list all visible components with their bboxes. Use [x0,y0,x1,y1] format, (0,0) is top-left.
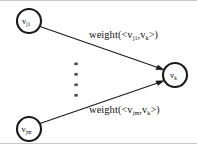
weight-top-target-subscript: k [146,34,149,41]
node-vk-label: vk [170,71,177,80]
vertical-ellipsis-icon [74,63,77,97]
edge-vjm-vk-arrowhead [156,81,165,86]
node-vj1-subscript: j1 [26,21,30,27]
weight-top-target: v [140,29,145,40]
node-vjm-subscript: jm [26,129,32,135]
edge-vj1-vk-arrowhead [156,65,165,70]
edge-vjm-vk-weight-label: weight(<vjm,vk>) [89,105,160,116]
weight-top-function: weight [89,29,118,40]
weight-bottom-source: v [127,104,132,115]
weight-top-source: v [127,29,132,40]
node-vj1-label: vj1 [22,17,31,26]
weight-bottom-open: (< [118,104,127,115]
edge-vj1-vk-weight-label: weight(<vj1,vk>) [89,30,158,41]
node-vjm-label: vjm [22,125,32,134]
weight-top-close: >) [149,29,158,40]
graph-diagram: vj1 vjm vk weight(<vj1,vk>) weight(<vjm,… [0,0,197,151]
weight-top-open: (< [118,29,127,40]
weight-bottom-close: >) [150,104,159,115]
weight-bottom-target-subscript: k [147,109,150,116]
weight-top-source-subscript: j1 [133,34,138,41]
node-vk-subscript: k [174,75,177,81]
edge-vjm-vk-line [40,82,162,124]
weight-bottom-function: weight [89,104,118,115]
weight-bottom-source-subscript: jm [133,109,140,116]
edge-vjm-vk [40,81,164,124]
